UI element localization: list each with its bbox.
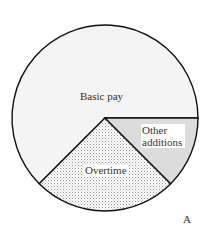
slice-label-other-additions: Other additions: [141, 124, 185, 148]
pie-chart: [0, 0, 211, 240]
slice-label-basic-pay: Basic pay: [80, 91, 123, 102]
slice-label-overtime: Overtime: [84, 165, 128, 176]
pie-slices: [12, 25, 198, 211]
panel-label: A: [183, 213, 191, 225]
